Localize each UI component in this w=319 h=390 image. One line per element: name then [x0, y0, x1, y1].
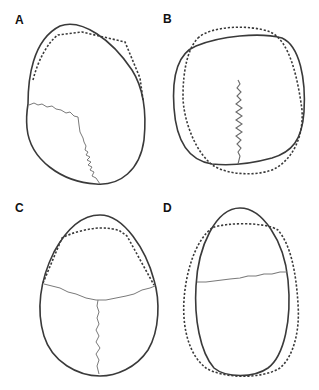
- skull-diagram: [0, 0, 319, 390]
- panel-a-solid-outline: [27, 24, 145, 184]
- panel-c-solid-outline: [40, 215, 158, 376]
- panel-d-solid-outline: [196, 208, 289, 376]
- panel-d-dashed-outline: [184, 224, 299, 377]
- panel-c-dashed-outline: [43, 228, 154, 285]
- panel-d-suture: [197, 272, 287, 282]
- panel-a-dashed-outline: [33, 32, 143, 100]
- panel-b-suture: [236, 80, 242, 164]
- panel-d: [184, 208, 299, 376]
- panel-b: [174, 27, 305, 174]
- panel-a-suture: [29, 103, 100, 184]
- panel-a: [27, 24, 145, 184]
- panel-c: [40, 215, 158, 376]
